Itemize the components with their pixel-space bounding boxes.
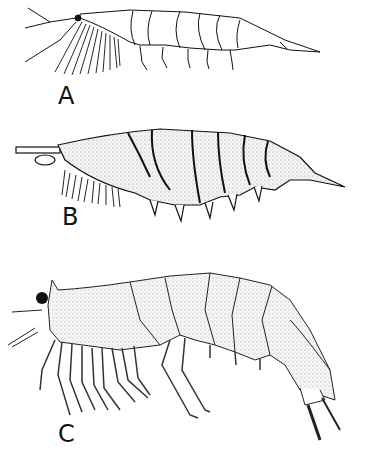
panel-b: B xyxy=(0,115,370,240)
panel-a: A xyxy=(0,0,370,115)
eye xyxy=(36,292,48,304)
panel-label-a: A xyxy=(58,82,74,110)
specimen-a-drawing xyxy=(0,0,370,115)
panel-c: C xyxy=(0,240,370,460)
specimen-b-drawing xyxy=(0,115,370,240)
panel-label-c: C xyxy=(58,420,75,448)
specimen-c-drawing xyxy=(0,240,370,460)
panel-label-b: B xyxy=(62,203,78,231)
figure: A xyxy=(0,0,370,460)
